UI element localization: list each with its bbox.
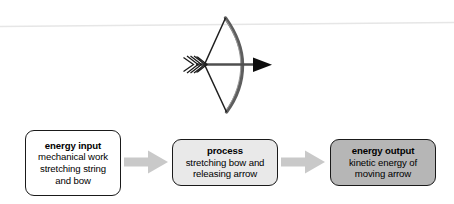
- node-process-line-2: releasing arrow: [193, 168, 257, 180]
- node-energy-output-title: energy output: [352, 145, 415, 157]
- node-energy-output-line-2: moving arrow: [355, 168, 411, 180]
- node-process-line-1: stretching bow and: [186, 157, 265, 169]
- node-energy-input-title: energy input: [45, 140, 101, 152]
- diagram-canvas: energy input mechanical work stretching …: [0, 0, 454, 204]
- bow-and-arrow-illustration: [0, 0, 454, 125]
- node-energy-output-line-1: kinetic energy of: [349, 157, 417, 169]
- node-energy-output[interactable]: energy output kinetic energy of moving a…: [330, 139, 436, 186]
- node-energy-input-line-2: stretching string: [40, 163, 106, 175]
- node-energy-input-line-3: and bow: [55, 175, 91, 187]
- connector-1-arrow-icon: [124, 151, 168, 174]
- arrow-head-icon: [253, 58, 272, 73]
- node-energy-input-line-1: mechanical work: [38, 151, 108, 163]
- node-process[interactable]: process stretching bow and releasing arr…: [172, 139, 278, 186]
- node-process-title: process: [207, 145, 243, 157]
- node-energy-input[interactable]: energy input mechanical work stretching …: [25, 130, 121, 196]
- connector-2-arrow-icon: [281, 151, 325, 174]
